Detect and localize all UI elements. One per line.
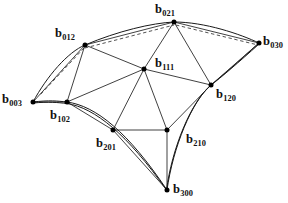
edge-b120-b210	[167, 85, 211, 130]
vertex-b120[interactable]	[209, 83, 214, 88]
label-b030-subscript: 030	[270, 41, 283, 50]
label-b012: b012	[55, 27, 75, 40]
edge-b012-b111	[85, 45, 144, 69]
label-b102-base: b	[50, 108, 57, 122]
label-b201-subscript: 201	[103, 143, 116, 152]
label-b021-base: b	[155, 2, 162, 16]
label-b111-base: b	[155, 56, 162, 70]
vertex-b003[interactable]	[31, 100, 36, 105]
edge-b111-b201	[113, 69, 144, 130]
edge-b030-b120	[211, 43, 259, 85]
label-b021-subscript: 021	[162, 9, 175, 18]
label-b210-subscript: 210	[193, 139, 206, 148]
dashed-chord-b012-b021	[85, 25, 174, 48]
label-b201-base: b	[96, 136, 103, 150]
label-b300-subscript: 300	[180, 189, 193, 198]
label-b111: b111	[155, 57, 174, 70]
label-b012-base: b	[55, 26, 62, 40]
label-b201: b201	[96, 137, 116, 150]
edge-b111-b120	[144, 69, 211, 85]
edge-b111-b210	[144, 69, 167, 130]
control-net-diagram	[0, 0, 288, 203]
label-b210-base: b	[186, 132, 193, 146]
bezier-control-net-figure: b003 b012 b021 b030 b102 b111 b120 b201 …	[0, 0, 288, 203]
label-b102: b102	[50, 109, 70, 122]
label-b210: b210	[186, 133, 206, 146]
label-b030-base: b	[263, 34, 270, 48]
vertex-b012[interactable]	[83, 43, 88, 48]
label-b102-subscript: 102	[57, 115, 70, 124]
label-b300-base: b	[173, 182, 180, 196]
label-b012-subscript: 012	[62, 33, 75, 42]
edge-b012-b021	[85, 22, 174, 45]
label-b021: b021	[155, 3, 175, 16]
edge-b021-b120	[174, 22, 211, 85]
label-b030: b030	[263, 35, 283, 48]
edge-b012-b102	[67, 45, 85, 102]
vertex-b111[interactable]	[142, 67, 147, 72]
label-b003-subscript: 003	[9, 99, 22, 108]
label-b003-base: b	[2, 92, 9, 106]
vertex-b030[interactable]	[257, 41, 262, 46]
edge-b003-b012	[33, 45, 85, 102]
label-b120-base: b	[216, 87, 223, 101]
edge-b021-b030	[174, 22, 259, 43]
dashed-chord-b012-b003	[40, 48, 84, 95]
boundary-curves	[33, 22, 259, 190]
label-b120-subscript: 120	[223, 94, 236, 103]
vertex-b201[interactable]	[111, 128, 116, 133]
edge-b201-b300	[113, 130, 167, 190]
vertex-b102[interactable]	[65, 100, 70, 105]
vertex-b300[interactable]	[165, 188, 170, 193]
vertex-b210[interactable]	[165, 128, 170, 133]
label-b120: b120	[216, 88, 236, 101]
edge-b102-b201	[67, 102, 113, 130]
control-net-edges	[33, 22, 259, 190]
boundary-curve-right	[167, 43, 259, 190]
vertex-b021[interactable]	[172, 20, 177, 25]
label-b300: b300	[173, 183, 193, 196]
label-b003: b003	[2, 93, 22, 106]
label-b111-subscript: 111	[162, 63, 174, 72]
edge-b102-b111	[67, 69, 144, 102]
boundary-curve-right-offset	[167, 44, 260, 190]
